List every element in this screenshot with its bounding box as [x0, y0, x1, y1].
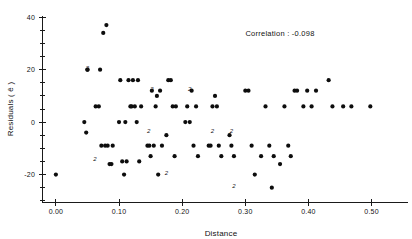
data-point: [227, 133, 231, 137]
data-point: [101, 31, 105, 35]
data-point: [155, 94, 159, 98]
data-point: [246, 89, 250, 93]
data-point: [84, 130, 88, 134]
data-point: [154, 104, 158, 108]
correlation-annotation: Correlation : -0.098: [245, 29, 314, 38]
data-point: [118, 78, 122, 82]
data-point: [106, 144, 110, 148]
x-tick-label: 0.30: [238, 208, 252, 215]
data-point: [341, 104, 345, 108]
data-point: [301, 104, 305, 108]
x-axis-title: Distance: [205, 229, 238, 238]
data-point: [282, 104, 286, 108]
data-point: [188, 120, 192, 124]
data-point: [213, 94, 217, 98]
overlap-count-label: 2: [231, 183, 236, 189]
data-point: [152, 144, 156, 148]
data-point: [122, 172, 126, 176]
data-point: [217, 144, 221, 148]
overlap-count-label: 2: [229, 128, 234, 134]
x-tick-label: 0.50: [364, 208, 378, 215]
y-axis-title: Residuals ( ê ): [6, 82, 15, 137]
data-point: [210, 104, 214, 108]
data-point: [135, 120, 139, 124]
x-axis: 0.000.100.200.300.400.50: [42, 199, 408, 216]
data-point: [272, 154, 276, 158]
data-point: [82, 120, 86, 124]
x-tick-label: 0.00: [49, 208, 63, 215]
overlap-count-label: 2: [164, 170, 169, 176]
data-point: [330, 104, 334, 108]
data-point: [149, 154, 153, 158]
overlap-count-label: 2: [92, 156, 97, 162]
y-tick-label: -20: [24, 171, 35, 178]
data-point: [164, 133, 168, 137]
data-point: [117, 120, 121, 124]
data-point: [137, 159, 141, 163]
data-point: [219, 154, 223, 158]
overlap-count-labels: 222222222: [85, 65, 236, 189]
data-point: [131, 78, 135, 82]
data-point: [229, 144, 233, 148]
data-point: [314, 89, 318, 93]
x-tick-label: 0.10: [112, 208, 126, 215]
y-tick-label: 40: [27, 14, 35, 21]
data-point: [139, 104, 143, 108]
data-point: [98, 68, 102, 72]
data-point: [196, 154, 200, 158]
data-point: [123, 120, 127, 124]
x-tick-label: 0.40: [301, 208, 315, 215]
data-point: [183, 120, 187, 124]
y-axis: -2002040: [24, 14, 45, 202]
overlap-count-label: 2: [85, 65, 90, 71]
data-points-layer: [54, 23, 373, 190]
overlap-count-label: 2: [187, 86, 192, 92]
data-point: [270, 186, 274, 190]
y-tick-label: 0: [31, 119, 35, 126]
data-point: [194, 104, 198, 108]
data-point: [232, 154, 236, 158]
data-point: [120, 159, 124, 163]
data-point: [136, 78, 140, 82]
data-point: [208, 144, 212, 148]
data-point: [126, 78, 130, 82]
data-point: [156, 172, 160, 176]
data-point: [174, 104, 178, 108]
y-tick-label: 20: [27, 66, 35, 73]
data-point: [267, 144, 271, 148]
data-point: [111, 144, 115, 148]
overlap-count-label: 2: [210, 128, 215, 134]
data-point: [263, 104, 267, 108]
data-point: [253, 172, 257, 176]
data-point: [133, 104, 137, 108]
data-point: [278, 162, 282, 166]
data-point: [286, 144, 290, 148]
data-point: [125, 159, 129, 163]
data-point: [97, 104, 101, 108]
data-point: [104, 23, 108, 27]
plot-canvas: -2002040 0.000.100.200.300.400.50 222222…: [0, 0, 412, 239]
data-point: [327, 78, 331, 82]
data-point: [215, 104, 219, 108]
data-point: [310, 104, 314, 108]
data-point: [109, 162, 113, 166]
overlap-count-label: 2: [146, 128, 151, 134]
data-point: [99, 144, 103, 148]
data-point: [185, 104, 189, 108]
annotation-layer: Correlation : -0.098: [245, 29, 314, 38]
data-point: [368, 104, 372, 108]
data-point: [295, 89, 299, 93]
data-point: [169, 78, 173, 82]
data-point: [250, 144, 254, 148]
data-point: [172, 154, 176, 158]
data-point: [147, 144, 151, 148]
data-point: [349, 104, 353, 108]
data-point: [191, 144, 195, 148]
overlap-count-label: 2: [149, 86, 154, 92]
data-point: [54, 172, 58, 176]
data-point: [289, 154, 293, 158]
residual-scatter-plot: -2002040 0.000.100.200.300.400.50 222222…: [0, 0, 412, 239]
data-point: [158, 89, 162, 93]
data-point: [160, 144, 164, 148]
x-tick-label: 0.20: [175, 208, 189, 215]
